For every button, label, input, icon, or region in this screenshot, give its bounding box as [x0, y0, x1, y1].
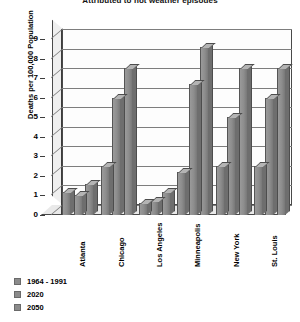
y-tick-label-8: 8: [34, 55, 38, 63]
chart-title: Attributed to hot weather episodes: [0, 0, 300, 5]
bar-side-face: [224, 163, 229, 215]
y-tick-label-0: 0: [34, 211, 38, 219]
y-tick-mark-1: [40, 195, 45, 196]
legend-swatch-icon: [14, 278, 21, 285]
y-tick-mark-0: [40, 215, 45, 216]
legend-item-0[interactable]: 1964 - 1991: [14, 275, 164, 288]
gridline-8: [62, 49, 292, 50]
y-tick-label-7: 7: [34, 74, 38, 82]
bar-atlanta-0: [62, 192, 71, 215]
y-tick-mark-3: [40, 156, 45, 157]
bar-chart: Attributed to hot weather episodes Death…: [0, 0, 300, 322]
bar-side-face: [285, 65, 290, 215]
bar-side-face: [120, 94, 125, 215]
bar-chicago-0: [101, 166, 110, 215]
x-axis-label-los-angeles: Los Angeles: [155, 223, 164, 267]
bar-side-face: [109, 163, 114, 215]
gridline-5: [62, 107, 292, 108]
y-tick-mark-9: [40, 39, 45, 40]
bar-st-louis-0: [254, 166, 263, 215]
gridline-6: [62, 88, 292, 89]
y-tick-label-3: 3: [34, 152, 38, 160]
y-tick-mark-2: [40, 176, 45, 177]
bar-los-angeles-2: [162, 192, 171, 215]
legend-swatch-icon: [14, 291, 21, 298]
x-axis-label-chicago: Chicago: [117, 237, 126, 267]
bar-side-face: [197, 81, 202, 215]
gridline-4: [62, 127, 292, 128]
bar-atlanta-1: [74, 195, 83, 215]
legend-label: 2020: [27, 290, 44, 299]
legend-swatch-icon: [14, 304, 21, 311]
bar-side-face: [208, 44, 213, 215]
y-tick-label-2: 2: [34, 172, 38, 180]
bar-side-face: [185, 169, 190, 215]
y-tick-label-4: 4: [34, 133, 38, 141]
bar-side-face: [273, 94, 278, 215]
y-tick-mark-4: [40, 137, 45, 138]
bar-minneapolis-1: [189, 84, 198, 215]
bar-minneapolis-0: [177, 172, 186, 215]
bar-los-angeles-0: [139, 203, 148, 215]
bar-side-face: [247, 65, 252, 215]
bar-side-face: [93, 181, 98, 215]
y-tick-label-6: 6: [34, 94, 38, 102]
bar-side-face: [262, 163, 267, 215]
x-axis-label-st-louis: St. Louis: [270, 235, 279, 267]
plot-area: 0123456789: [52, 29, 292, 215]
legend-item-2[interactable]: 2050: [14, 301, 164, 314]
bar-st-louis-2: [277, 68, 286, 215]
bar-side-face: [235, 114, 240, 215]
y-tick-mark-8: [40, 59, 45, 60]
y-tick-label-1: 1: [34, 191, 38, 199]
y-tick-mark-5: [40, 117, 45, 118]
chart-legend: 1964 - 199120202050: [14, 275, 164, 314]
legend-label: 2050: [27, 303, 44, 312]
gridline-7: [62, 68, 292, 69]
bar-new-york-0: [216, 166, 225, 215]
y-tick-label-5: 5: [34, 113, 38, 121]
x-axis-label-atlanta: Atlanta: [78, 242, 87, 267]
y-tick-mark-6: [40, 98, 45, 99]
x-axis-labels: AtlantaChicagoLos AngelesMinneapolisNew …: [52, 215, 297, 273]
gridline-9: [62, 29, 292, 30]
gridline-3: [62, 146, 292, 147]
legend-label: 1964 - 1991: [27, 277, 67, 286]
x-axis-label-new-york: New York: [232, 234, 241, 268]
y-tick-label-9: 9: [34, 35, 38, 43]
x-axis-label-minneapolis: Minneapolis: [193, 224, 202, 267]
y-tick-mark-7: [40, 78, 45, 79]
legend-item-1[interactable]: 2020: [14, 288, 164, 301]
y-axis-line: [61, 29, 62, 215]
bar-side-face: [132, 65, 137, 215]
